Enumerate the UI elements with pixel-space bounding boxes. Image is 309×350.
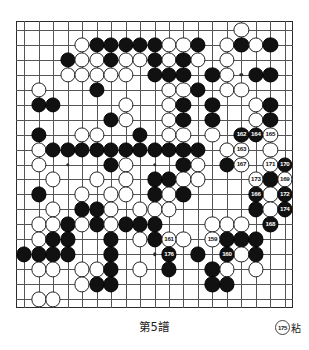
note-label: 粘 bbox=[291, 320, 301, 335]
caption: 第5譜 175 粘 bbox=[0, 316, 309, 340]
move-number: 170 bbox=[280, 161, 289, 167]
move-number: 164 bbox=[251, 131, 260, 137]
move-number: 173 bbox=[251, 176, 260, 182]
move-number: 169 bbox=[280, 176, 289, 182]
diagram-title: 第5譜 bbox=[0, 318, 309, 334]
move-number: 174 bbox=[280, 206, 289, 212]
move-number: 167 bbox=[237, 161, 246, 167]
grid-line-v bbox=[24, 21, 25, 308]
move-number: 172 bbox=[280, 191, 289, 197]
move-number: 165 bbox=[266, 131, 275, 137]
move-marker-stone: 175 bbox=[275, 320, 290, 335]
move-number: 168 bbox=[266, 221, 275, 227]
move-number: 176 bbox=[164, 251, 173, 257]
move-number: 163 bbox=[237, 146, 246, 152]
caption-note: 175 粘 bbox=[275, 320, 301, 335]
move-number: 166 bbox=[251, 191, 260, 197]
move-number: 162 bbox=[237, 131, 246, 137]
move-number: 159 bbox=[208, 236, 217, 242]
go-board[interactable]: 1621641651631671711701731691661721741681… bbox=[16, 21, 293, 308]
move-number: 161 bbox=[164, 236, 173, 242]
move-number: 171 bbox=[266, 161, 275, 167]
move-number: 160 bbox=[222, 251, 231, 257]
